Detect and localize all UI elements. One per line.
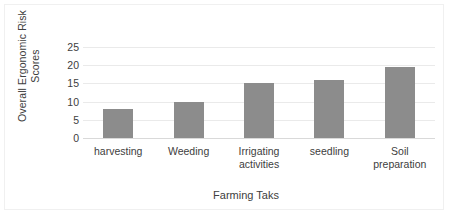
y-axis-title-line-2: Scores xyxy=(29,49,42,82)
chart-frame: Overall Ergonomic Risk Scores 0510152025… xyxy=(4,4,444,210)
bar-slot xyxy=(294,47,364,138)
x-axis-title: Farming Taks xyxy=(57,189,435,201)
x-axis-tick-label: seedling xyxy=(294,145,364,171)
y-axis-tick-label: 0 xyxy=(57,133,79,144)
bar-slot xyxy=(365,47,435,138)
y-axis-tick-label: 5 xyxy=(57,114,79,125)
bar-slot xyxy=(224,47,294,138)
bar[interactable] xyxy=(385,67,415,138)
bar-slot xyxy=(83,47,153,138)
bar[interactable] xyxy=(314,80,344,138)
bar[interactable] xyxy=(103,109,133,138)
x-axis-tick-labels: harvestingWeedingIrrigating activitiesse… xyxy=(83,145,435,171)
x-axis-tick-label: Weeding xyxy=(153,145,223,171)
x-axis-tick-label: harvesting xyxy=(83,145,153,171)
y-axis-tick-label: 15 xyxy=(57,78,79,89)
y-axis-title-line-1: Overall Ergonomic Risk xyxy=(16,10,29,122)
bar[interactable] xyxy=(244,83,274,138)
x-axis-tick-label: Irrigating activities xyxy=(224,145,294,171)
y-axis-tick-label: 10 xyxy=(57,96,79,107)
y-axis-tick-label: 20 xyxy=(57,60,79,71)
x-axis-tick-label: Soil preparation xyxy=(365,145,435,171)
bar-slot xyxy=(153,47,223,138)
bar[interactable] xyxy=(174,102,204,138)
y-axis-title: Overall Ergonomic Risk Scores xyxy=(9,0,49,136)
plot-area xyxy=(83,47,435,138)
y-axis-tick-labels: 0510152025 xyxy=(57,47,79,143)
bar-series xyxy=(83,47,435,138)
axis-baseline xyxy=(83,138,435,139)
y-axis-tick-label: 25 xyxy=(57,42,79,53)
plot-wrap: 0510152025 xyxy=(57,47,435,143)
